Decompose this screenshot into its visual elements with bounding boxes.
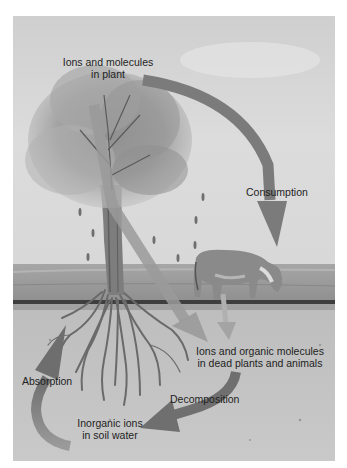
label-ions-in-plant-line1: Ions and molecules	[60, 56, 156, 68]
label-ions-in-dead-line1: Ions and organic molecules	[190, 345, 330, 357]
label-ions-in-dead: Ions and organic molecules in dead plant…	[190, 345, 330, 369]
label-ions-in-dead-line2: in dead plants and animals	[190, 357, 330, 369]
label-ions-in-plant-line2: in plant	[60, 68, 156, 80]
label-inorganic-ions: Inorganic ions in soil water	[70, 417, 150, 441]
label-ions-in-plant: Ions and molecules in plant	[60, 56, 156, 80]
label-absorption: Absorption	[22, 375, 72, 387]
label-inorganic-ions-line2: in soil water	[70, 429, 150, 441]
label-inorganic-ions-line1: Inorganic ions	[70, 417, 150, 429]
label-decomposition: Decomposition	[170, 393, 239, 405]
label-consumption: Consumption	[246, 186, 308, 198]
